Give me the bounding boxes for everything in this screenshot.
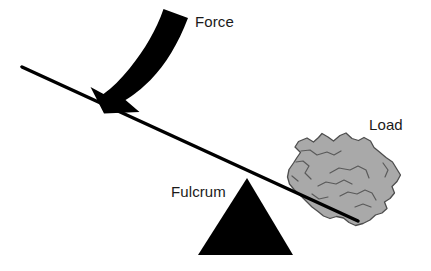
diagram-canvas — [0, 0, 431, 271]
load-rock-body — [288, 133, 401, 226]
force-arrow — [91, 9, 189, 114]
load-rock — [288, 133, 401, 226]
load-label: Load — [369, 117, 403, 132]
force-label: Force — [195, 14, 234, 29]
lever-diagram: Force Load Fulcrum — [0, 0, 431, 271]
fulcrum-label: Fulcrum — [171, 184, 226, 199]
